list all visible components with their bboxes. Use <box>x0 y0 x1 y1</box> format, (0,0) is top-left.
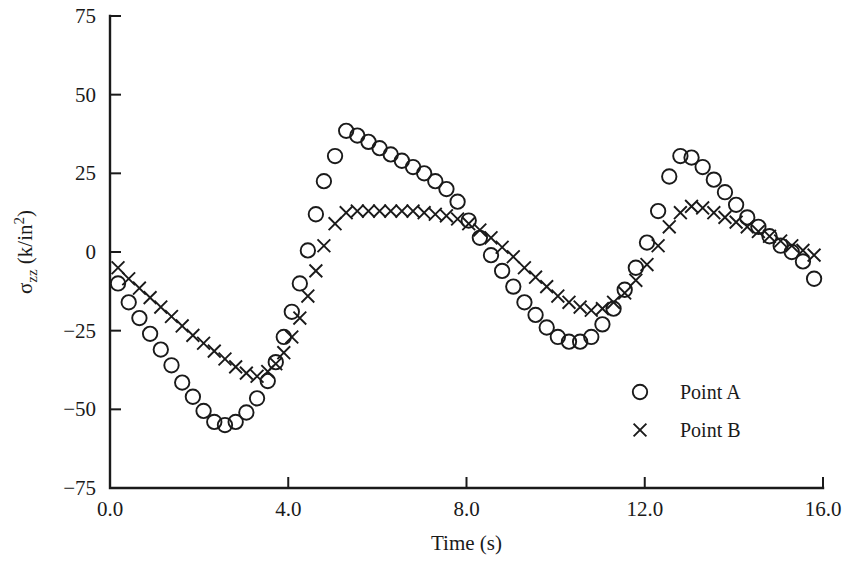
data-point-circle <box>309 207 323 221</box>
data-point-cross <box>395 205 408 218</box>
x-tick-label: 4.0 <box>275 497 301 521</box>
y-tick-label: −75 <box>63 476 96 500</box>
data-point-cross <box>663 220 676 233</box>
legend-label: Point A <box>680 381 741 403</box>
data-point-circle <box>633 385 647 399</box>
data-point-cross <box>301 290 314 303</box>
data-point-circle <box>395 154 409 168</box>
data-point-circle <box>196 404 210 418</box>
data-point-circle <box>617 283 631 297</box>
data-point-cross <box>208 345 221 358</box>
data-point-cross <box>634 424 647 437</box>
data-point-circle <box>718 185 732 199</box>
data-point-circle <box>450 194 464 208</box>
data-point-circle <box>269 355 283 369</box>
data-point-cross <box>563 296 576 309</box>
data-point-circle <box>250 391 264 405</box>
data-point-cross <box>329 217 342 230</box>
data-point-circle <box>406 160 420 174</box>
legend: Point APoint B <box>633 381 741 441</box>
data-point-cross <box>540 280 553 293</box>
data-point-circle <box>595 317 609 331</box>
data-point-cross <box>440 209 453 222</box>
x-tick-label: 12.0 <box>626 497 663 521</box>
data-point-circle <box>629 261 643 275</box>
data-point-cross <box>518 261 531 274</box>
data-point-circle <box>528 308 542 322</box>
x-tick-label: 16.0 <box>805 497 842 521</box>
data-point-circle <box>506 279 520 293</box>
data-point-circle <box>495 264 509 278</box>
y-axis-ticks: 7550250−25−50−75 <box>63 4 121 500</box>
data-point-circle <box>175 375 189 389</box>
data-point-circle <box>239 405 253 419</box>
data-point-circle <box>484 248 498 262</box>
data-point-circle <box>640 235 654 249</box>
data-point-cross <box>309 264 322 277</box>
legend-label: Point B <box>680 419 741 441</box>
data-point-cross <box>269 357 282 370</box>
data-point-cross <box>696 202 709 215</box>
data-point-cross <box>529 271 542 284</box>
data-point-circle <box>132 311 146 325</box>
scatter-plot: 7550250−25−50−75 0.04.08.012.016.0 Point… <box>0 0 845 568</box>
data-point-circle <box>372 141 386 155</box>
data-point-circle <box>439 182 453 196</box>
data-point-circle <box>651 204 665 218</box>
data-point-cross <box>808 249 821 262</box>
data-point-cross <box>384 205 397 218</box>
data-point-circle <box>807 272 821 286</box>
data-point-circle <box>662 169 676 183</box>
axis-frame <box>110 16 823 488</box>
data-point-cross <box>277 346 290 359</box>
data-point-circle <box>277 330 291 344</box>
data-point-cross <box>707 206 720 219</box>
x-axis-ticks: 0.04.08.012.016.0 <box>97 477 842 521</box>
data-point-circle <box>328 149 342 163</box>
data-point-circle <box>707 172 721 186</box>
y-tick-label: 25 <box>75 161 96 185</box>
x-tick-label: 0.0 <box>97 497 123 521</box>
y-tick-label: 75 <box>75 4 96 28</box>
data-point-cross <box>574 301 587 314</box>
data-point-cross <box>362 205 375 218</box>
data-point-cross <box>285 331 298 344</box>
axes <box>110 16 823 488</box>
data-point-cross <box>351 205 364 218</box>
y-axis-title: σzz (k/in2) <box>11 210 40 294</box>
data-point-cross <box>496 241 509 254</box>
data-point-circle <box>695 160 709 174</box>
data-point-cross <box>186 329 199 342</box>
y-tick-label: −50 <box>63 397 96 421</box>
data-point-cross <box>507 250 520 263</box>
data-point-circle <box>517 295 531 309</box>
data-point-cross <box>197 337 210 350</box>
chart-container: 7550250−25−50−75 0.04.08.012.016.0 Point… <box>0 0 845 568</box>
data-point-circle <box>164 358 178 372</box>
y-tick-label: 50 <box>75 83 96 107</box>
data-point-cross <box>730 216 743 229</box>
data-point-cross <box>473 224 486 237</box>
data-point-cross <box>763 230 776 243</box>
x-tick-label: 8.0 <box>453 497 479 521</box>
data-point-circle <box>154 342 168 356</box>
data-point-cross <box>373 205 386 218</box>
data-point-circle <box>293 276 307 290</box>
x-axis-title: Time (s) <box>431 531 502 555</box>
data-point-circle <box>301 243 315 257</box>
y-tick-label: 0 <box>86 240 97 264</box>
data-point-circle <box>729 198 743 212</box>
data-point-circle <box>317 174 331 188</box>
data-point-circle <box>285 305 299 319</box>
y-tick-label: −25 <box>63 319 96 343</box>
data-point-cross <box>318 239 331 252</box>
data-point-cross <box>674 206 687 219</box>
data-point-circle <box>186 390 200 404</box>
data-point-circle <box>143 327 157 341</box>
data-point-cross <box>551 290 564 303</box>
data-point-circle <box>122 295 136 309</box>
data-point-circle <box>361 135 375 149</box>
data-point-cross <box>719 211 732 224</box>
data-point-circle <box>384 147 398 161</box>
series-point-b-markers <box>112 200 821 383</box>
